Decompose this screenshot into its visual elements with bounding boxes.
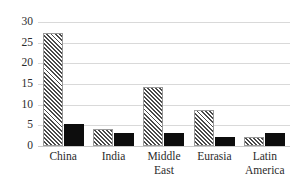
- x-tick-label-latin-america: Latin America: [240, 149, 290, 178]
- y-tick-label-30: 30: [0, 16, 33, 28]
- bar-solid: [215, 137, 235, 146]
- bar-hatched: [93, 129, 113, 146]
- bar-group: [38, 22, 88, 146]
- y-tick-label-5: 5: [0, 120, 33, 132]
- x-tick-label-middle-east: Middle East: [139, 149, 189, 178]
- bar-solid: [114, 133, 134, 146]
- y-tick-label-0: 0: [0, 140, 33, 152]
- bar-group: [240, 22, 290, 146]
- bar-hatched: [143, 87, 163, 146]
- bar-group: [189, 22, 239, 146]
- y-tick-label-25: 25: [0, 37, 33, 49]
- bar-hatched: [43, 33, 63, 146]
- bar-group: [139, 22, 189, 146]
- bar-hatched: [194, 110, 214, 146]
- y-axis-tick-labels: 051015202530: [0, 22, 33, 146]
- bar-hatched: [244, 137, 264, 146]
- x-axis-category-labels: ChinaIndiaMiddle EastEurasiaLatin Americ…: [38, 149, 290, 189]
- x-tick-label-india: India: [88, 149, 138, 163]
- x-tick-label-china: China: [38, 149, 88, 163]
- bar-solid: [64, 124, 84, 146]
- y-tick-label-15: 15: [0, 78, 33, 90]
- y-tick-label-10: 10: [0, 99, 33, 111]
- x-tick-label-eurasia: Eurasia: [189, 149, 239, 163]
- plot-area: [38, 22, 290, 146]
- bar-solid: [164, 133, 184, 146]
- bar-solid: [265, 133, 285, 146]
- bar-chart: 051015202530 ChinaIndiaMiddle EastEurasi…: [0, 0, 299, 189]
- gridline-0: [38, 146, 290, 147]
- bar-group: [88, 22, 138, 146]
- y-tick-label-20: 20: [0, 58, 33, 70]
